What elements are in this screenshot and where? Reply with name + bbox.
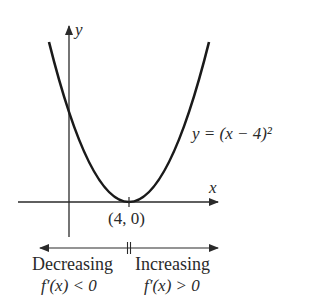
x-axis-label: x	[209, 178, 217, 198]
increasing-condition: f′(x) > 0	[144, 276, 200, 296]
vertex-label: (4, 0)	[108, 209, 145, 229]
function-equation: y = (x − 4)²	[192, 124, 272, 143]
function-label: y = (x − 4)²	[192, 124, 272, 144]
y-axis-label: y	[75, 20, 83, 40]
increasing-label: Increasing	[135, 254, 210, 275]
decreasing-label: Decreasing	[32, 254, 113, 275]
parabola-curve	[49, 42, 209, 202]
decreasing-condition: f′(x) < 0	[41, 276, 97, 296]
